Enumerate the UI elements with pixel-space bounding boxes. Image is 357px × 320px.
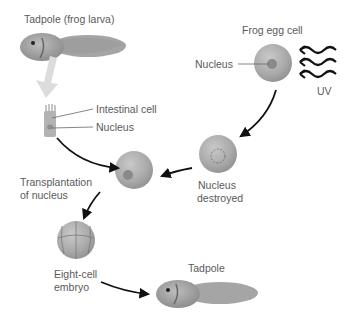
label-tadpole-result: Tadpole xyxy=(188,262,225,275)
leader-nucleus-intestinal xyxy=(52,127,93,128)
label-uv: UV xyxy=(317,85,332,98)
selection-arrow-icon xyxy=(36,56,58,98)
label-nucleus-destroyed-2: destroyed xyxy=(197,192,243,205)
process-arrows xyxy=(57,90,276,294)
tadpole-result-icon xyxy=(156,280,258,308)
label-tadpole-larva: Tadpole (frog larva) xyxy=(24,13,114,26)
frog-egg-cell-icon xyxy=(254,44,292,82)
leader-intestinal-cell xyxy=(52,109,93,118)
label-nucleus-destroyed-1: Nucleus xyxy=(198,179,236,192)
label-intestinal-cell: Intestinal cell xyxy=(96,103,157,116)
intestinal-cell-icon xyxy=(44,104,56,137)
label-eight-cell-1: Eight-cell xyxy=(54,268,97,281)
label-frog-egg-cell: Frog egg cell xyxy=(242,24,303,37)
label-eight-cell-2: embryo xyxy=(54,281,89,294)
label-nucleus-egg: Nucleus xyxy=(195,58,233,71)
tadpole-larva-icon xyxy=(20,33,126,61)
label-transplantation-2: of nucleus xyxy=(20,189,68,202)
enucleated-egg-cell-icon xyxy=(199,135,237,173)
transplanted-egg-cell-icon xyxy=(115,151,153,189)
label-transplantation-1: Transplantation xyxy=(20,176,92,189)
eight-cell-embryo-icon xyxy=(57,221,95,259)
uv-rays-icon xyxy=(300,46,336,78)
label-nucleus-intestinal: Nucleus xyxy=(96,121,134,134)
